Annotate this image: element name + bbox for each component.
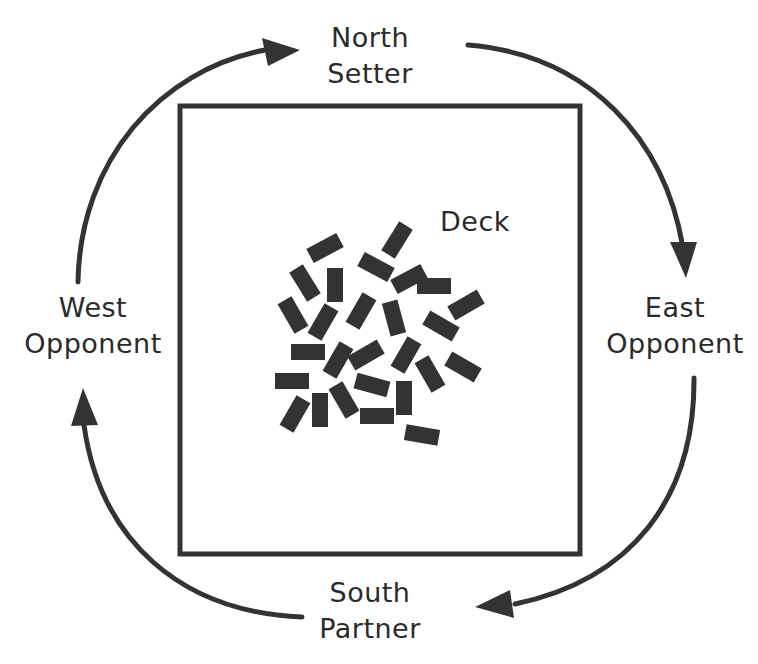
tile xyxy=(360,408,394,424)
tile xyxy=(354,373,391,397)
tile xyxy=(275,373,309,389)
arrowhead-icon xyxy=(262,38,300,66)
arrowhead-icon xyxy=(475,590,514,618)
west-role: Opponent xyxy=(18,326,168,362)
player-north-label: North Setter xyxy=(305,20,435,92)
table-square xyxy=(180,106,580,554)
arrow-east-to-south xyxy=(475,378,694,618)
north-role: Setter xyxy=(305,56,435,92)
tile xyxy=(382,300,406,337)
arrow-south-to-west xyxy=(71,388,302,617)
arrow-west-to-north xyxy=(78,38,300,282)
tile xyxy=(444,352,481,383)
west-position: West xyxy=(18,290,168,326)
deck-label: Deck xyxy=(440,204,510,240)
tile xyxy=(280,395,311,432)
arrowhead-icon xyxy=(71,388,98,426)
south-role: Partner xyxy=(305,611,435,647)
east-role: Opponent xyxy=(600,326,750,362)
player-east-label: East Opponent xyxy=(600,290,750,362)
tile xyxy=(381,221,413,258)
tile xyxy=(308,303,339,340)
player-south-label: South Partner xyxy=(305,575,435,647)
player-west-label: West Opponent xyxy=(18,290,168,362)
tile xyxy=(396,381,412,415)
arrowhead-icon xyxy=(670,242,697,278)
tile xyxy=(306,233,344,263)
tile xyxy=(391,336,422,373)
tile xyxy=(327,268,343,302)
deck-tiles xyxy=(275,221,485,445)
tile xyxy=(289,264,321,301)
tile xyxy=(404,424,440,446)
tile xyxy=(278,296,309,333)
tile xyxy=(323,341,354,378)
tile xyxy=(347,340,384,371)
tile xyxy=(357,252,395,282)
tile xyxy=(417,278,451,294)
east-position: East xyxy=(600,290,750,326)
north-position: North xyxy=(305,20,435,56)
tile xyxy=(346,292,377,329)
tile xyxy=(312,393,328,427)
tile xyxy=(415,355,446,392)
south-position: South xyxy=(305,575,435,611)
deck-text: Deck xyxy=(440,204,510,240)
tile xyxy=(447,290,484,321)
tile xyxy=(291,344,325,360)
